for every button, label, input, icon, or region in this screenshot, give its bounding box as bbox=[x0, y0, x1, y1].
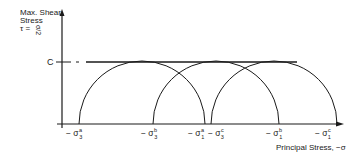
tick-label-sigma3-a: − σa3 bbox=[66, 127, 82, 140]
mohr-circle-diagram bbox=[0, 0, 364, 152]
y-axis-label-fraction: σ/2 bbox=[34, 25, 42, 35]
tick-label-sigma1-a: − σa1 bbox=[188, 127, 204, 140]
y-axis-label-tau: τ = bbox=[20, 25, 30, 33]
x-axis-label: Principal Stress, −σ bbox=[276, 144, 346, 152]
c-label: C bbox=[47, 58, 54, 66]
mohr-circle-a bbox=[79, 61, 205, 124]
tick-label-sigma1-c: − σc1 bbox=[315, 127, 331, 140]
mohr-circle-b bbox=[153, 61, 279, 124]
mohr-circle-c bbox=[211, 61, 337, 124]
tick-label-sigma1-b: − σb1 bbox=[266, 127, 282, 140]
tick-label-sigma3-b: − σb3 bbox=[141, 127, 157, 140]
tick-label-sigma3-c: − σc3 bbox=[208, 127, 224, 140]
